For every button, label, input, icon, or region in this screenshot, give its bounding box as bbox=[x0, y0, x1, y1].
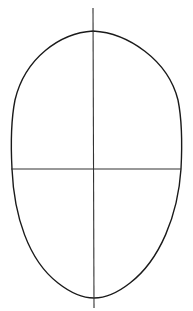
head-outline-drawing bbox=[0, 0, 193, 311]
canvas-background bbox=[0, 0, 193, 311]
